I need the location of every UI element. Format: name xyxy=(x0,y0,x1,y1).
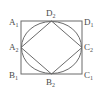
vertex-label-b2-subscript: 2 xyxy=(52,82,55,88)
vertex-label-a1: A1 xyxy=(9,18,19,27)
vertex-label-c1-subscript: 1 xyxy=(90,75,93,81)
vertex-label-d1: D1 xyxy=(84,18,94,27)
inscribed-circle xyxy=(22,22,82,74)
vertex-label-a1-subscript: 1 xyxy=(16,22,19,28)
vertex-label-d2-subscript: 2 xyxy=(53,13,56,19)
vertex-label-a2: A2 xyxy=(9,43,19,52)
vertex-label-b1-subscript: 1 xyxy=(15,75,18,81)
vertex-label-d2-base: D xyxy=(46,8,53,18)
vertex-label-a1-base: A xyxy=(9,17,16,27)
vertex-label-b1: B1 xyxy=(9,71,18,80)
vertex-label-c2-subscript: 2 xyxy=(90,47,93,53)
vertex-label-d2: D2 xyxy=(46,9,56,18)
vertex-label-c1: C1 xyxy=(84,71,93,80)
vertex-label-d1-base: D xyxy=(84,17,91,27)
vertex-label-c2: C2 xyxy=(84,43,93,52)
vertex-label-d1-subscript: 1 xyxy=(91,22,94,28)
vertex-label-a2-subscript: 2 xyxy=(16,47,19,53)
vertex-label-a2-base: A xyxy=(9,42,16,52)
vertex-label-b2: B2 xyxy=(46,78,55,87)
geometry-figure: A1 D2 D1 A2 C2 B1 B2 C1 xyxy=(0,0,101,95)
